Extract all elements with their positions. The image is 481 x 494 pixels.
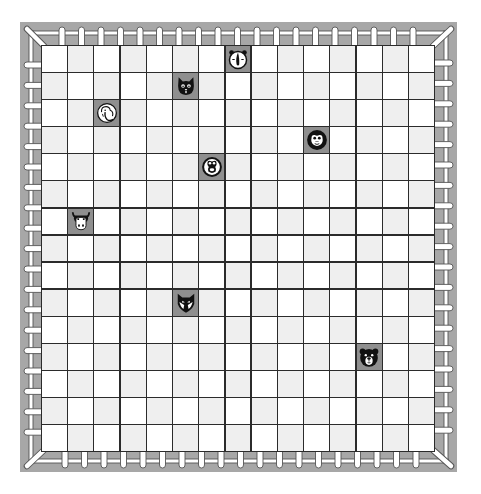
board-cell-r14-c4[interactable]	[147, 425, 172, 451]
board-cell-r12-c4[interactable]	[147, 371, 172, 397]
board-cell-r2-c12[interactable]	[357, 100, 382, 126]
board-cell-r5-c11[interactable]	[330, 181, 355, 207]
board-cell-r5-c1[interactable]	[68, 181, 93, 207]
board-cell-r7-c4[interactable]	[147, 236, 172, 262]
board-cell-r10-c3[interactable]	[121, 317, 146, 343]
board-cell-r2-c7[interactable]	[226, 100, 251, 126]
board-cell-r3-c4[interactable]	[147, 127, 172, 153]
board-cell-r3-c10[interactable]	[304, 127, 329, 153]
board-cell-r14-c7[interactable]	[226, 425, 251, 451]
board-cell-r1-c0[interactable]	[42, 73, 67, 99]
board-cell-r13-c2[interactable]	[94, 398, 119, 424]
board-cell-r6-c11[interactable]	[330, 209, 355, 235]
board-cell-r6-c2[interactable]	[94, 209, 119, 235]
board-cell-r9-c1[interactable]	[68, 290, 93, 316]
board-cell-r2-c1[interactable]	[68, 100, 93, 126]
board-cell-r10-c2[interactable]	[94, 317, 119, 343]
board-cell-r3-c13[interactable]	[383, 127, 408, 153]
board-cell-r12-c0[interactable]	[42, 371, 67, 397]
board-cell-r2-c8[interactable]	[252, 100, 277, 126]
board-cell-r9-c11[interactable]	[330, 290, 355, 316]
board-cell-r12-c11[interactable]	[330, 371, 355, 397]
board-cell-r11-c8[interactable]	[252, 344, 277, 370]
board-cell-r8-c12[interactable]	[357, 263, 382, 289]
board-cell-r8-c14[interactable]	[409, 263, 434, 289]
board-cell-r2-c5[interactable]	[173, 100, 198, 126]
board-cell-r3-c14[interactable]	[409, 127, 434, 153]
board-cell-r0-c3[interactable]	[121, 46, 146, 72]
piece-cat[interactable]	[173, 73, 198, 99]
board-cell-r5-c14[interactable]	[409, 181, 434, 207]
board-cell-r3-c8[interactable]	[252, 127, 277, 153]
board-cell-r8-c2[interactable]	[94, 263, 119, 289]
board-cell-r4-c4[interactable]	[147, 154, 172, 180]
board-cell-r6-c6[interactable]	[199, 209, 224, 235]
board-cell-r1-c13[interactable]	[383, 73, 408, 99]
board-cell-r14-c9[interactable]	[278, 425, 303, 451]
board-cell-r3-c11[interactable]	[330, 127, 355, 153]
board-cell-r12-c8[interactable]	[252, 371, 277, 397]
board-cell-r6-c9[interactable]	[278, 209, 303, 235]
board-cell-r6-c10[interactable]	[304, 209, 329, 235]
board-cell-r6-c4[interactable]	[147, 209, 172, 235]
board-cell-r7-c2[interactable]	[94, 236, 119, 262]
board-cell-r10-c11[interactable]	[330, 317, 355, 343]
board-cell-r0-c6[interactable]	[199, 46, 224, 72]
board-cell-r8-c6[interactable]	[199, 263, 224, 289]
board-cell-r5-c2[interactable]	[94, 181, 119, 207]
board-cell-r3-c7[interactable]	[226, 127, 251, 153]
board-cell-r2-c11[interactable]	[330, 100, 355, 126]
board-cell-r13-c11[interactable]	[330, 398, 355, 424]
board-cell-r11-c11[interactable]	[330, 344, 355, 370]
board-cell-r9-c7[interactable]	[226, 290, 251, 316]
board-cell-r4-c1[interactable]	[68, 154, 93, 180]
piece-elephant[interactable]	[94, 100, 119, 126]
board-cell-r4-c14[interactable]	[409, 154, 434, 180]
board-cell-r12-c13[interactable]	[383, 371, 408, 397]
board-cell-r1-c8[interactable]	[252, 73, 277, 99]
board-cell-r6-c14[interactable]	[409, 209, 434, 235]
board-cell-r5-c10[interactable]	[304, 181, 329, 207]
board-cell-r13-c6[interactable]	[199, 398, 224, 424]
board-cell-r11-c14[interactable]	[409, 344, 434, 370]
board-cell-r7-c10[interactable]	[304, 236, 329, 262]
board-cell-r13-c8[interactable]	[252, 398, 277, 424]
board-cell-r0-c2[interactable]	[94, 46, 119, 72]
board-cell-r12-c2[interactable]	[94, 371, 119, 397]
board-cell-r7-c0[interactable]	[42, 236, 67, 262]
board-cell-r11-c10[interactable]	[304, 344, 329, 370]
board-cell-r13-c7[interactable]	[226, 398, 251, 424]
board-cell-r4-c11[interactable]	[330, 154, 355, 180]
board-cell-r3-c5[interactable]	[173, 127, 198, 153]
board-cell-r2-c0[interactable]	[42, 100, 67, 126]
board-cell-r11-c1[interactable]	[68, 344, 93, 370]
board-cell-r13-c9[interactable]	[278, 398, 303, 424]
board-cell-r12-c6[interactable]	[199, 371, 224, 397]
board-cell-r0-c10[interactable]	[304, 46, 329, 72]
board-cell-r0-c11[interactable]	[330, 46, 355, 72]
board-cell-r7-c12[interactable]	[357, 236, 382, 262]
board-cell-r10-c1[interactable]	[68, 317, 93, 343]
board-cell-r12-c14[interactable]	[409, 371, 434, 397]
board-cell-r10-c0[interactable]	[42, 317, 67, 343]
board-cell-r14-c5[interactable]	[173, 425, 198, 451]
board-cell-r11-c4[interactable]	[147, 344, 172, 370]
board-cell-r4-c13[interactable]	[383, 154, 408, 180]
board-cell-r0-c0[interactable]	[42, 46, 67, 72]
board-cell-r8-c13[interactable]	[383, 263, 408, 289]
piece-cow[interactable]	[68, 209, 93, 235]
board-cell-r12-c1[interactable]	[68, 371, 93, 397]
board-cell-r10-c12[interactable]	[357, 317, 382, 343]
board-cell-r0-c8[interactable]	[252, 46, 277, 72]
board-cell-r14-c12[interactable]	[357, 425, 382, 451]
board-cell-r14-c3[interactable]	[121, 425, 146, 451]
board-cell-r11-c2[interactable]	[94, 344, 119, 370]
board-cell-r14-c0[interactable]	[42, 425, 67, 451]
board-cell-r3-c6[interactable]	[199, 127, 224, 153]
board-cell-r12-c3[interactable]	[121, 371, 146, 397]
board-cell-r5-c4[interactable]	[147, 181, 172, 207]
board-cell-r9-c4[interactable]	[147, 290, 172, 316]
board-cell-r2-c3[interactable]	[121, 100, 146, 126]
board-cell-r11-c12[interactable]	[357, 344, 382, 370]
board-cell-r7-c7[interactable]	[226, 236, 251, 262]
